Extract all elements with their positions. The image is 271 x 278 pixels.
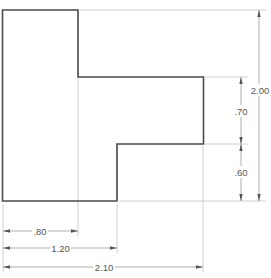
arrow-up-icon <box>257 10 260 17</box>
dimension-210: 2.10 <box>3 261 203 273</box>
dimension-label-200: 2.00 <box>251 85 270 96</box>
arrow-down-icon <box>239 137 242 144</box>
arrow-right-icon <box>196 265 203 268</box>
arrow-down-icon <box>257 194 260 201</box>
dimension-070: .70 <box>233 77 249 144</box>
dimension-120: 1.20 <box>3 242 117 254</box>
dimension-080: .80 <box>3 225 78 237</box>
part-outline <box>3 10 204 201</box>
arrow-left-icon <box>3 229 10 232</box>
dimension-200: 2.00 <box>249 10 271 201</box>
dimension-label-210: 2.10 <box>95 262 114 273</box>
dimension-label-060: .60 <box>234 167 247 178</box>
arrow-right-icon <box>71 229 78 232</box>
arrow-left-icon <box>3 246 10 249</box>
arrow-left-icon <box>3 265 10 268</box>
arrow-right-icon <box>110 246 117 249</box>
dimension-label-120: 1.20 <box>51 243 70 254</box>
arrow-up-icon <box>239 144 242 151</box>
arrow-down-icon <box>239 194 242 201</box>
dimension-label-080: .80 <box>33 226 46 237</box>
dimension-060: .60 <box>233 144 249 201</box>
arrow-up-icon <box>239 77 242 84</box>
technical-drawing: .80 1.20 2.10 .70 .60 2.00 <box>0 0 271 278</box>
dimension-label-070: .70 <box>234 106 247 117</box>
